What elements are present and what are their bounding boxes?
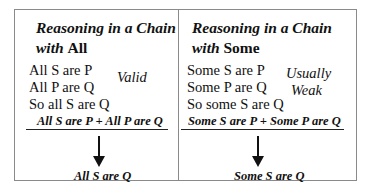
conclusion-text: Some S are Q [234, 169, 305, 183]
premise-2: Some P are Q [187, 79, 267, 95]
formula-text: Some S are P + Some P are Q [188, 114, 341, 128]
verdict-label: Valid [117, 69, 147, 85]
down-arrow-icon [93, 136, 105, 168]
panel-title-line1: Reasoning in a Chain [36, 19, 176, 37]
panel-all: Reasoning in a Chain with All All S are … [14, 9, 178, 181]
formula-underline [26, 129, 168, 130]
verdict-label-2: Weak [291, 82, 322, 98]
conclusion-line: So all S are Q [29, 96, 110, 112]
panel-title-line2: with Some [192, 39, 260, 57]
verdict-label-1: Usually [286, 65, 331, 81]
panel-title-line1: Reasoning in a Chain [192, 19, 332, 37]
panel-some: Reasoning in a Chain with Some Some S ar… [179, 9, 357, 181]
premise-2: All P are Q [29, 79, 94, 95]
premise-1: All S are P [29, 62, 92, 78]
panel-title-line2: with All [36, 39, 87, 57]
premise-1: Some S are P [187, 62, 265, 78]
title-quantifier: All [67, 39, 87, 56]
conclusion-text: All S are Q [74, 169, 131, 183]
title-with: with [192, 39, 220, 56]
down-arrow-icon [252, 136, 264, 168]
formula-underline [181, 129, 344, 130]
title-with: with [36, 39, 64, 56]
conclusion-line: So some S are Q [187, 96, 284, 112]
title-quantifier: Some [223, 39, 259, 56]
formula-text: All S are P + All P are Q [37, 114, 163, 128]
